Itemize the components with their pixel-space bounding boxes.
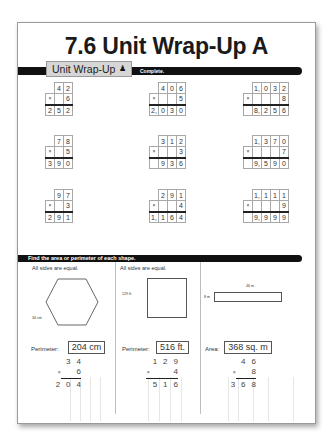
hexagon-shape — [44, 277, 100, 327]
rectangle-shape — [214, 292, 282, 302]
shapes-section-header: Find the area or perimeter of each shape… — [18, 255, 302, 262]
perimeter-label: Perimeter: — [31, 346, 59, 352]
problem-9: 1,111 ×9 9,999 — [243, 189, 289, 223]
tab-label: Unit Wrap-Up — [52, 62, 115, 76]
problem-5: 312 ×3 936 — [149, 135, 186, 169]
problem-3: 1,032 ×8 8,256 — [243, 82, 289, 116]
person-icon: ♟ — [119, 62, 126, 76]
hexagon-work: 34 ×6 204 — [51, 357, 81, 390]
page-title: 7.6 Unit Wrap-Up A — [18, 33, 315, 60]
rectangle-work: 46 ×8 368 — [226, 357, 256, 390]
problem-1: 42 ×6 252 — [45, 82, 73, 116]
square-perimeter-answer: 516 ft. — [156, 341, 189, 354]
complete-instruction: Complete. — [140, 68, 164, 74]
shapes-instruction: Find the area or perimeter of each shape… — [28, 255, 136, 262]
shape-1-caption: All sides are equal. — [32, 265, 78, 271]
perimeter-label: Perimeter: — [122, 346, 150, 352]
shape-2-caption: All sides are equal. — [120, 265, 166, 271]
column-divider — [200, 262, 201, 414]
area-label: Area: — [205, 346, 219, 352]
hexagon-side-label: 34 cm — [32, 316, 42, 320]
unit-wrap-up-tab: Unit Wrap-Up ♟ — [46, 61, 132, 77]
problem-6: 1,370 ×7 9,590 — [243, 135, 289, 169]
rectangle-width-label: 46 m — [246, 284, 254, 288]
problem-4: 78 ×5 390 — [45, 135, 73, 169]
column-divider — [115, 262, 116, 414]
problem-2: 406 ×5 2,030 — [149, 82, 186, 116]
problem-8: 291 ×4 1,164 — [149, 189, 186, 223]
worksheet-page: 7.6 Unit Wrap-Up A Unit Wrap-Up ♟ Comple… — [17, 22, 316, 424]
square-side-label: 129 ft. — [122, 292, 132, 296]
square-work: 129 ×4 516 — [136, 357, 178, 390]
rectangle-height-label: 8 m — [204, 295, 210, 299]
hexagon-perimeter-answer: 204 cm — [68, 341, 105, 354]
rectangle-area-answer: 368 sq. m — [224, 341, 272, 354]
square-shape — [147, 278, 187, 318]
problem-7: 97 ×3 291 — [45, 189, 73, 223]
